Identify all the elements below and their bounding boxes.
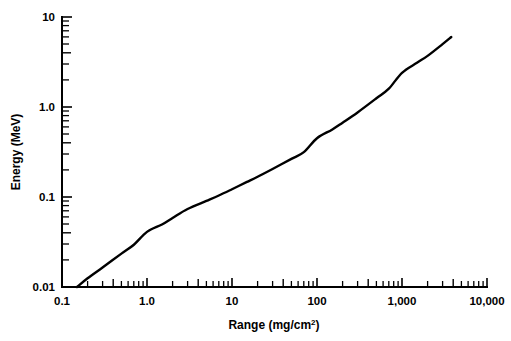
y-axis-title: Energy (MeV)	[9, 114, 23, 191]
x-tick-label-10: 10	[226, 295, 239, 307]
x-axis-title-base: Range (mg/cm	[228, 318, 311, 332]
x-tick-label-0-1: 0.1	[54, 295, 71, 307]
x-tick-label-10000: 10,000	[469, 295, 504, 307]
y-tick-label-0-1: 0.1	[39, 191, 56, 203]
x-tick-label-1000: 1,000	[388, 295, 417, 307]
y-tick-label-0-01: 0.01	[33, 281, 56, 293]
y-tick-label-10: 10	[42, 11, 55, 23]
x-axis-title: Range (mg/cm2)	[228, 318, 319, 332]
range-energy-log-log-plot: 10 1.0 0.1 0.01 Energy (MeV)	[0, 0, 511, 341]
x-tick-label-1: 1.0	[139, 295, 155, 307]
y-tick-label-1: 1.0	[39, 101, 55, 113]
x-tick-label-100: 100	[307, 295, 326, 307]
x-axis-title-close: )	[316, 318, 320, 332]
chart-figure: 10 1.0 0.1 0.01 Energy (MeV)	[0, 0, 511, 341]
